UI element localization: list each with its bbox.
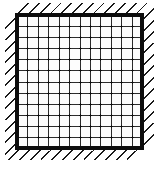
figure-container <box>0 0 158 169</box>
mesh-plate-diagram <box>0 0 158 169</box>
grid-mesh <box>15 13 144 150</box>
